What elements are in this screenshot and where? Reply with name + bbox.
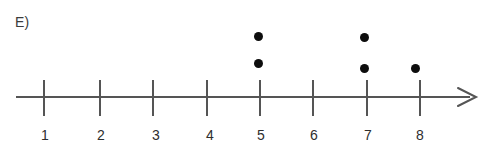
data-dot [254,59,263,68]
number-line-plot: 1 2 3 4 5 6 7 8 [0,0,480,151]
data-dot [411,64,420,73]
data-dot [360,64,369,73]
tick-label-6: 6 [299,127,329,144]
dot-plot-screenshot: E) 1 2 3 4 5 6 7 8 [0,0,480,151]
tick-label-8: 8 [405,127,435,144]
data-dot [360,33,369,42]
tick-label-1: 1 [30,127,60,144]
tick-label-3: 3 [141,127,171,144]
data-dot [254,32,263,41]
axis-line-group [16,88,476,106]
tick-label-2: 2 [86,127,116,144]
tick-label-4: 4 [195,127,225,144]
tick-label-7: 7 [353,127,383,144]
tick-label-5: 5 [246,127,276,144]
